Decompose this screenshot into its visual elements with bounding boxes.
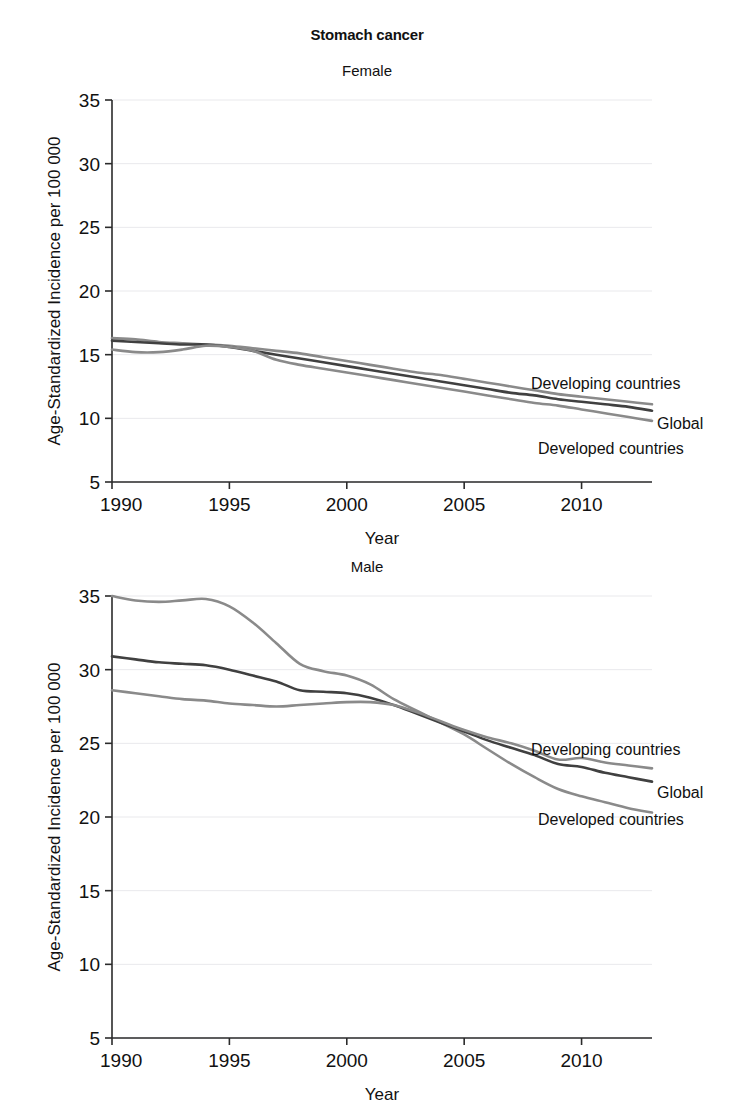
panel-subtitle-female: Female [0, 62, 734, 79]
series-label-developing-countries: Developing countries [531, 741, 680, 758]
x-tick-label-1990: 1990 [100, 494, 142, 515]
y-tick-label-15: 15 [79, 345, 100, 366]
x-tick-label-2010: 2010 [560, 1050, 602, 1071]
y-axis-title: Age-Standardized Incidence per 100 000 [45, 662, 64, 971]
y-tick-label-20: 20 [79, 807, 100, 828]
y-tick-label-10: 10 [79, 954, 100, 975]
y-tick-label-20: 20 [79, 281, 100, 302]
series-label-global: Global [657, 784, 703, 801]
series-label-developed-countries: Developed countries [538, 440, 684, 457]
x-tick-label-2000: 2000 [326, 494, 368, 515]
series-label-global: Global [657, 415, 703, 432]
x-tick-label-1995: 1995 [208, 1050, 250, 1071]
y-tick-label-5: 5 [89, 472, 100, 493]
x-tick-label-2005: 2005 [443, 1050, 485, 1071]
series-label-developing-countries: Developing countries [531, 375, 680, 392]
x-axis-title: Year [365, 529, 400, 548]
x-axis-title: Year [365, 1085, 400, 1104]
y-tick-label-25: 25 [79, 733, 100, 754]
y-tick-label-30: 30 [79, 154, 100, 175]
y-tick-label-15: 15 [79, 881, 100, 902]
y-tick-label-35: 35 [79, 586, 100, 607]
y-tick-label-10: 10 [79, 408, 100, 429]
y-tick-label-35: 35 [79, 90, 100, 111]
x-tick-label-2010: 2010 [560, 494, 602, 515]
y-tick-label-30: 30 [79, 660, 100, 681]
figure-root: Stomach cancer Female 510152025303519901… [0, 0, 734, 1118]
x-tick-label-2005: 2005 [443, 494, 485, 515]
chart-panel-female: Female 510152025303519901995200020052010… [0, 62, 734, 562]
x-tick-label-2000: 2000 [326, 1050, 368, 1071]
chart-svg-male: 510152025303519901995200020052010YearAge… [0, 580, 734, 1110]
y-tick-label-5: 5 [89, 1028, 100, 1049]
chart-svg-female: 510152025303519901995200020052010YearAge… [0, 84, 734, 554]
figure-title: Stomach cancer [0, 26, 734, 43]
y-tick-label-25: 25 [79, 217, 100, 238]
series-label-developed-countries: Developed countries [538, 811, 684, 828]
x-tick-label-1990: 1990 [100, 1050, 142, 1071]
series-line-global [112, 656, 652, 781]
x-tick-label-1995: 1995 [208, 494, 250, 515]
chart-panel-male: Male 510152025303519901995200020052010Ye… [0, 558, 734, 1118]
y-axis-title: Age-Standardized Incidence per 100 000 [45, 136, 64, 445]
panel-subtitle-male: Male [0, 558, 734, 575]
